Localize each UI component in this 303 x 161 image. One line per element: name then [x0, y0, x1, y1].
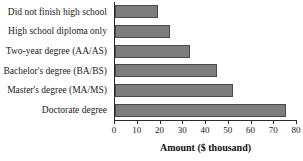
x-axis-tick [273, 120, 274, 124]
x-axis-tick [296, 120, 297, 124]
x-axis-title: Amount ($ thousand) [114, 142, 297, 153]
x-axis-tick-label: 10 [132, 125, 141, 136]
x-axis-tick-label: 20 [155, 125, 164, 136]
bar-row [115, 84, 297, 97]
x-axis-tick-label: 40 [201, 125, 210, 136]
category-label: High school diploma only [0, 26, 110, 36]
bar [115, 5, 158, 18]
x-axis-tick-label: 60 [246, 125, 255, 136]
x-axis-tick [205, 120, 206, 124]
x-axis-tick [114, 120, 115, 124]
bar [115, 25, 170, 38]
x-axis-tick-label: 80 [292, 125, 301, 136]
x-axis-tick [182, 120, 183, 124]
bar-row [115, 25, 297, 38]
x-axis-tick [160, 120, 161, 124]
bar-row [115, 104, 297, 117]
x-axis-tick [251, 120, 252, 124]
bar [115, 45, 190, 58]
plot-area [114, 2, 297, 120]
x-axis-tick-label: 30 [178, 125, 187, 136]
bar-chart: Did not finish high school High school d… [0, 0, 303, 161]
bar-row [115, 64, 297, 77]
x-axis-tick-label: 0 [112, 125, 117, 136]
bar [115, 104, 286, 117]
bar-row [115, 5, 297, 18]
bar [115, 84, 233, 97]
category-axis-labels: Did not finish high school High school d… [0, 2, 110, 120]
bar [115, 64, 217, 77]
category-label: Master's degree (MA/MS) [0, 85, 110, 95]
bars-group [115, 2, 297, 120]
x-axis-tick [137, 120, 138, 124]
x-axis-tick-label: 70 [269, 125, 278, 136]
x-axis-tick-labels: 01020304050607080 [114, 125, 297, 137]
bar-row [115, 45, 297, 58]
category-label: Two-year degree (AA/AS) [0, 46, 110, 56]
x-axis-tick [228, 120, 229, 124]
category-label: Doctorate degree [0, 105, 110, 115]
category-label: Bachelor's degree (BA/BS) [0, 66, 110, 76]
category-label: Did not finish high school [0, 7, 110, 17]
x-axis-tick-label: 50 [223, 125, 232, 136]
